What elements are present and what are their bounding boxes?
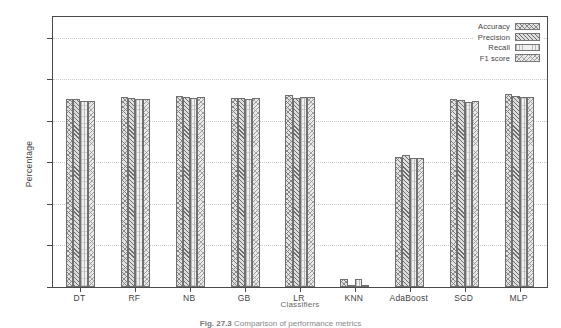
bar-mlp-f1-score — [527, 97, 534, 287]
legend-item-f1-score[interactable]: F1 score — [478, 54, 540, 63]
bar-dt-precision — [73, 99, 80, 287]
bar-nb-accuracy — [176, 96, 183, 287]
bar-sgd-recall — [465, 102, 472, 287]
bar-group — [285, 17, 314, 287]
x-axis-label-nb: NB — [183, 293, 195, 303]
x-axis-tick — [410, 287, 411, 292]
bar-sgd-accuracy — [450, 99, 457, 287]
bar-group — [121, 17, 150, 287]
bar-dt-f1-score — [88, 101, 95, 288]
bar-dt-recall — [80, 101, 87, 287]
legend-item-precision[interactable]: Precision — [478, 33, 540, 42]
x-axis-label-rf: RF — [128, 293, 140, 303]
bar-nb-recall — [190, 98, 197, 287]
bar-dt-accuracy — [66, 99, 73, 287]
y-axis-tick — [47, 79, 53, 80]
bar-gb-accuracy — [231, 98, 238, 287]
x-axis-label-mlp: MLP — [510, 293, 528, 303]
bar-group — [340, 17, 369, 287]
bar-lr-recall — [300, 97, 307, 287]
figure-container: Percentage AccuracyPrecisionRecallF1 sco… — [0, 0, 561, 328]
x-axis-label-lr: LR — [293, 293, 304, 303]
bar-knn-recall — [355, 279, 362, 287]
bar-group — [231, 17, 260, 287]
legend-swatch-diagonal-hatch — [515, 33, 540, 41]
bar-gb-precision — [238, 98, 245, 287]
bar-rf-f1-score — [143, 99, 150, 287]
legend-label: Precision — [478, 33, 510, 42]
bar-mlp-recall — [520, 97, 527, 287]
x-axis-tick — [190, 287, 191, 292]
legend-swatch-cross-hatch-dense — [515, 23, 540, 31]
bar-gb-recall — [245, 99, 252, 287]
bar-nb-precision — [183, 97, 190, 287]
bar-adaboost-precision — [402, 155, 409, 287]
chart-legend: AccuracyPrecisionRecallF1 score — [474, 20, 543, 65]
y-axis-tick — [47, 204, 53, 205]
bar-sgd-precision — [457, 100, 464, 287]
bar-adaboost-f1-score — [417, 158, 424, 287]
bar-knn-f1-score — [362, 285, 369, 287]
bar-group — [395, 17, 424, 287]
bar-gb-f1-score — [252, 98, 259, 287]
y-axis-tick — [47, 287, 53, 288]
bar-lr-f1-score — [307, 97, 314, 287]
plot-frame: AccuracyPrecisionRecallF1 score 02040608… — [52, 16, 548, 288]
x-axis-tick — [465, 287, 466, 292]
x-axis-tick — [245, 287, 246, 292]
bar-adaboost-accuracy — [395, 157, 402, 287]
legend-item-recall[interactable]: Recall — [478, 43, 540, 52]
y-axis-tick — [47, 245, 53, 246]
bar-group — [176, 17, 205, 287]
bar-lr-precision — [293, 98, 300, 287]
bar-adaboost-recall — [410, 158, 417, 287]
bar-group — [66, 17, 95, 287]
bar-knn-precision — [348, 285, 355, 287]
x-axis-tick — [135, 287, 136, 292]
bar-sgd-f1-score — [472, 101, 479, 287]
x-axis-label-sgd: SGD — [454, 293, 473, 303]
caption-number: Fig. 27.3 — [200, 319, 232, 328]
legend-label: Accuracy — [478, 22, 510, 31]
y-axis-tick — [47, 121, 53, 122]
legend-label: F1 score — [480, 54, 510, 63]
bar-knn-accuracy — [340, 279, 347, 287]
y-axis-tick — [47, 162, 53, 163]
bar-mlp-accuracy — [505, 94, 512, 287]
x-axis-tick — [520, 287, 521, 292]
caption-text: Comparison of performance metrics — [232, 319, 361, 328]
y-axis-tick — [47, 38, 53, 39]
x-axis-label-dt: DT — [74, 293, 86, 303]
y-axis-title: Percentage — [24, 141, 34, 187]
legend-item-accuracy[interactable]: Accuracy — [478, 22, 540, 31]
bar-rf-accuracy — [121, 97, 128, 287]
x-axis-label-adaboost: AdaBoost — [390, 293, 428, 303]
x-axis-label-knn: KNN — [345, 293, 364, 303]
legend-label: Recall — [488, 43, 510, 52]
bar-mlp-precision — [512, 96, 519, 287]
legend-swatch-sparse-dots — [515, 44, 540, 52]
x-axis-tick — [300, 287, 301, 292]
bar-lr-accuracy — [285, 95, 292, 287]
x-axis-tick — [80, 287, 81, 292]
figure-caption: Fig. 27.3 Comparison of performance metr… — [0, 319, 561, 328]
bar-rf-recall — [135, 99, 142, 287]
legend-swatch-cross-hatch-light — [515, 54, 540, 62]
bar-nb-f1-score — [197, 97, 204, 287]
x-axis-label-gb: GB — [238, 293, 251, 303]
bar-rf-precision — [128, 98, 135, 287]
x-axis-tick — [355, 287, 356, 292]
